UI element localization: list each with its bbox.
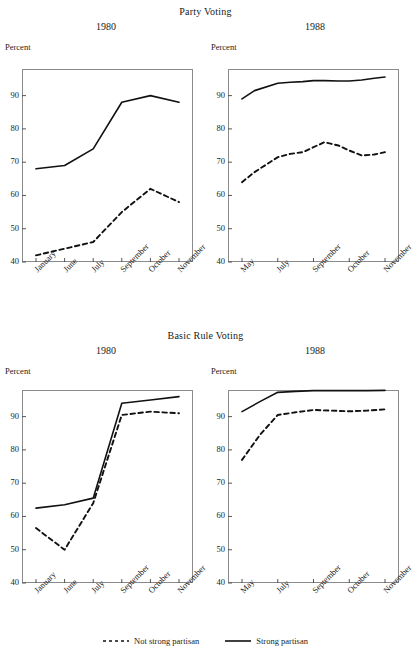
solid-line-icon bbox=[225, 638, 251, 644]
y-tick-label: 50 bbox=[203, 544, 225, 554]
legend-item-strong-partisan: Strong partisan bbox=[225, 636, 308, 646]
series-line-solid bbox=[242, 390, 385, 411]
series-line-dashed bbox=[242, 409, 385, 460]
y-tick-label: 60 bbox=[203, 510, 225, 520]
dashed-line-icon bbox=[103, 638, 129, 644]
y-tick-label: 40 bbox=[203, 577, 225, 587]
legend-label: Not strong partisan bbox=[134, 636, 199, 646]
legend-label: Strong partisan bbox=[256, 636, 308, 646]
y-tick-label: 90 bbox=[203, 411, 225, 421]
y-tick-label: 80 bbox=[203, 444, 225, 454]
chart-legend: Not strong partisan Strong partisan bbox=[0, 636, 411, 646]
legend-item-not-strong-partisan: Not strong partisan bbox=[103, 636, 199, 646]
y-tick-label: 70 bbox=[203, 477, 225, 487]
